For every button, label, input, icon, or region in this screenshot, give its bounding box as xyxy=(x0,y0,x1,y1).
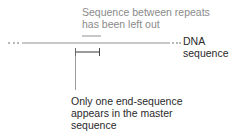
bracket-right-tick xyxy=(99,48,100,56)
top-annotation-line-1: Sequence between repeats xyxy=(82,6,210,18)
bottom-annotation-line-1: Only one end-sequence xyxy=(71,95,183,107)
top-annotation-line-2: has been left out xyxy=(82,18,210,30)
dna-label-line-1: DNA xyxy=(183,35,229,47)
bottom-annotation-line-3: sequence xyxy=(71,119,183,131)
dna-sequence-label: DNA sequence xyxy=(183,35,229,59)
right-dots xyxy=(172,42,182,44)
dna-sequence-line xyxy=(22,42,170,44)
bracket-left-tick xyxy=(75,48,76,56)
end-sequence-bar xyxy=(75,51,99,53)
bottom-annotation: Only one end-sequence appears in the mas… xyxy=(71,95,183,131)
left-dots xyxy=(8,42,20,44)
bottom-annotation-line-2: appears in the master xyxy=(71,107,183,119)
omitted-segment-bar xyxy=(82,35,101,37)
dna-label-line-2: sequence xyxy=(183,47,229,59)
top-annotation: Sequence between repeats has been left o… xyxy=(82,6,210,30)
pointer-line xyxy=(75,56,76,90)
